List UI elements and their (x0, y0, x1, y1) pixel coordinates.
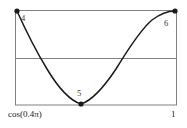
x-axis-left-tick-label: cos(0.4π) (8, 109, 42, 120)
control-point-5-marker (78, 101, 83, 106)
control-point-4-marker (14, 8, 19, 13)
control-point-6-label: 6 (164, 18, 168, 28)
x-axis-right-tick-label: 1 (171, 109, 176, 120)
cosine-curve (17, 11, 175, 104)
control-point-6-marker (172, 8, 177, 13)
control-point-5-label: 5 (77, 88, 81, 98)
cosine-plot-figure: 4 5 6 cos(0.4π) 1 (0, 0, 187, 128)
control-point-4-label: 4 (21, 13, 25, 23)
